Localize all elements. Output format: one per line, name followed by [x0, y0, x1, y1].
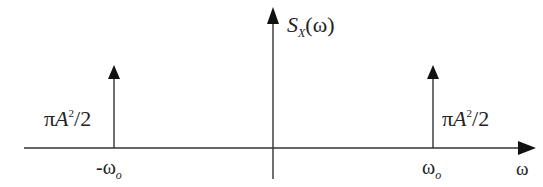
- psd-diagram: SX(ω) πA2/2 πA2/2 -ωo ωo ω: [0, 0, 543, 187]
- sx-axis-arrow-icon: [267, 7, 279, 24]
- impulse-right-arrow-icon: [427, 65, 439, 79]
- diagram-graphics: [0, 0, 543, 187]
- impulse-right-amplitude-label: πA2/2: [442, 108, 489, 130]
- impulse-left-arrow-icon: [108, 65, 120, 79]
- impulse-left-amplitude-label: πA2/2: [44, 108, 91, 130]
- impulse-left-position-label: -ωo: [96, 157, 122, 177]
- impulse-right-position-label: ωo: [422, 157, 441, 177]
- y-axis-label: SX(ω): [287, 14, 334, 36]
- omega-axis-arrow-icon: [518, 141, 536, 155]
- x-axis-label: ω: [516, 159, 529, 178]
